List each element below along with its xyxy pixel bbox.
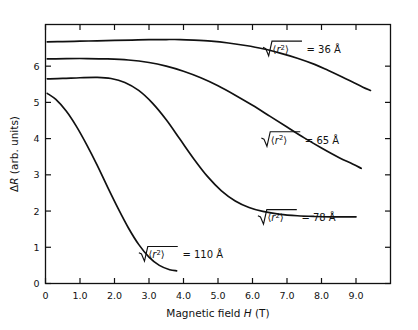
curve-label-value: = 110 Å	[182, 248, 223, 260]
x-tick-label: 5.0	[210, 290, 225, 301]
y-tick-label: 2	[33, 206, 39, 217]
figure-container: 01.02.03.04.05.06.07.08.09.0 0123456 ⟨r2…	[0, 0, 418, 330]
x-tick-label: 4.0	[176, 290, 191, 301]
x-tick-label: 2.0	[107, 290, 122, 301]
chart-svg: 01.02.03.04.05.06.07.08.09.0 0123456 ⟨r2…	[0, 0, 418, 330]
y-tick-label: 0	[33, 278, 39, 289]
x-tick-label: 9.0	[348, 290, 363, 301]
x-axis-label: Magnetic field H (T)	[166, 307, 269, 319]
x-tick-label: 3.0	[141, 290, 156, 301]
y-tick-label: 4	[33, 133, 39, 144]
y-tick-label: 5	[33, 97, 39, 108]
x-tick-label: 1.0	[72, 290, 87, 301]
y-tick-label: 1	[33, 242, 39, 253]
y-axis-label: ΔR (arb. units)	[8, 116, 20, 192]
curve-label-value: = 36 Å	[307, 43, 341, 55]
y-tick-label: 6	[33, 61, 39, 72]
x-tick-label: 0	[42, 290, 48, 301]
x-tick-label: 7.0	[279, 290, 294, 301]
curve-label-value: = 78 Å	[301, 211, 335, 223]
x-tick-label: 6.0	[245, 290, 260, 301]
x-tick-label: 8.0	[314, 290, 329, 301]
y-tick-label: 3	[33, 169, 39, 180]
curve-label-value: = 65 Å	[305, 134, 339, 146]
